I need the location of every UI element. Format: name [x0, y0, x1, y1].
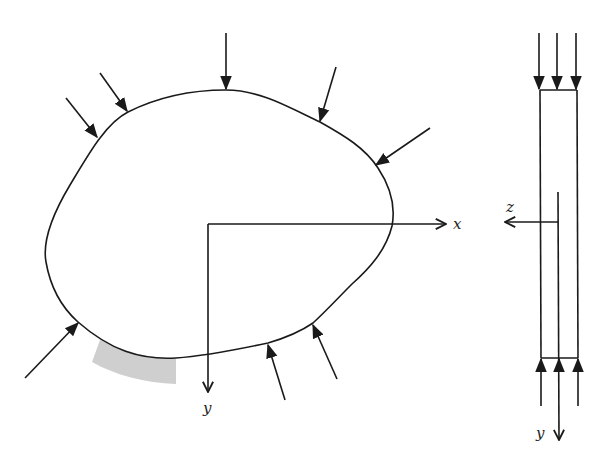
- shaded-surface-element: [92, 340, 176, 384]
- load-arrow: [320, 67, 336, 121]
- load-arrow: [66, 98, 97, 137]
- load-arrow: [313, 325, 337, 379]
- diagram-canvas: x y z y: [0, 0, 609, 464]
- load-arrow: [25, 323, 78, 378]
- y-axis-side-label: y: [535, 424, 545, 442]
- right-view: z y: [505, 33, 578, 442]
- z-axis-label: z: [505, 198, 514, 216]
- load-arrows: [25, 33, 430, 400]
- load-arrow: [100, 73, 127, 111]
- plate-right-edge: [577, 90, 578, 358]
- left-view: x y: [25, 33, 462, 417]
- plate-left-edge: [540, 90, 541, 358]
- load-arrow: [376, 128, 430, 165]
- y-axis-side: [558, 192, 559, 440]
- x-axis-label: x: [453, 215, 462, 233]
- load-arrow: [268, 345, 285, 400]
- y-axis-label: y: [202, 399, 212, 417]
